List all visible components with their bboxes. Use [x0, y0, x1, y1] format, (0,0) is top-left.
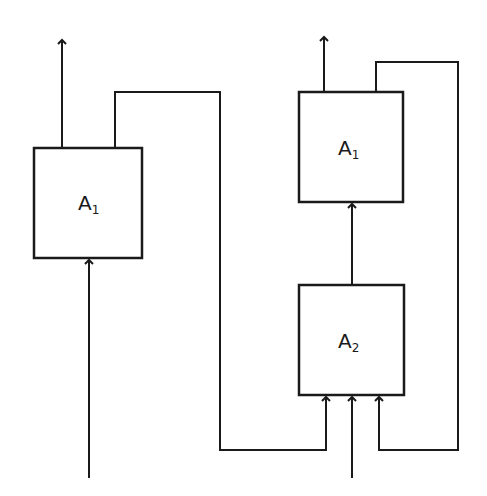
left-system: A1 — [34, 40, 326, 478]
right-system: A1 A2 — [299, 37, 458, 478]
right-block-a1-label: A1 — [338, 136, 359, 162]
right-block-a2-label: A2 — [338, 329, 359, 355]
left-feedback-line — [115, 92, 326, 450]
left-block-a1-label: A1 — [78, 191, 99, 217]
block-diagram: A1 A1 A2 — [0, 0, 487, 496]
right-feedback-line — [376, 62, 458, 450]
